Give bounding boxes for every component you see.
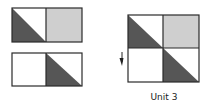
quilt-diagram (0, 0, 202, 107)
unit-cell-top-right (163, 15, 199, 48)
unit-cell-bottom-left (128, 48, 163, 82)
bottom-piece-left-cell (12, 53, 46, 86)
top-piece-right-cell (46, 8, 82, 42)
bottom-piece (12, 53, 82, 86)
unit-3-block (128, 15, 199, 82)
unit-label: Unit 3 (134, 92, 194, 102)
top-piece (12, 8, 82, 42)
down-arrow-icon (120, 52, 124, 66)
